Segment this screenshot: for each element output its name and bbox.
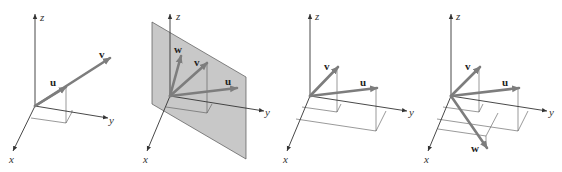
vector-u: [451, 88, 519, 96]
vector-u-label: u: [360, 76, 366, 88]
y-axis-label: y: [264, 106, 270, 118]
z-axis-label: z: [455, 10, 461, 22]
vector-v-label: v: [194, 56, 200, 68]
z-axis-label: z: [39, 11, 45, 23]
x-axis-label: x: [423, 153, 429, 165]
vector-u: [35, 87, 66, 106]
vector-u: [310, 88, 377, 96]
y-axis: [310, 96, 407, 111]
panel-4: z y x v u w: [423, 10, 554, 165]
vector-u-label: u: [50, 76, 56, 88]
panel-3: z y x v u: [282, 10, 414, 165]
projection-lines: [296, 68, 386, 131]
panel-1: z y x u v: [8, 11, 114, 165]
y-axis: [451, 96, 547, 111]
x-axis: [428, 96, 451, 151]
vector-v-label: v: [99, 48, 105, 60]
y-axis-label: y: [548, 106, 554, 118]
vector-v-label: v: [324, 60, 330, 72]
vector-u-label: u: [502, 76, 508, 88]
x-axis-label: x: [8, 153, 14, 165]
z-axis-label: z: [314, 10, 320, 22]
y-axis-label: y: [408, 106, 414, 118]
y-axis-label: y: [108, 114, 114, 126]
x-axis: [287, 96, 310, 151]
y-axis: [35, 106, 108, 118]
vector-u-label: u: [225, 75, 231, 87]
x-axis-label: x: [282, 153, 288, 165]
x-axis-label: x: [142, 153, 148, 165]
panel-2: z y x w v u: [142, 10, 270, 165]
vector-v-label: v: [465, 60, 471, 72]
vector-w-label: w: [471, 142, 479, 154]
vector-w-label: w: [174, 43, 182, 55]
vector-figure: z y x u v z y x w v u: [0, 0, 562, 172]
shaded-plane: [152, 22, 246, 159]
z-axis-label: z: [175, 10, 181, 22]
x-axis: [13, 106, 35, 151]
